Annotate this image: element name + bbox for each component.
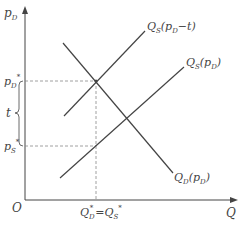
- tax-brace: [15, 81, 23, 146]
- y-axis-label: pD: [4, 6, 18, 22]
- origin-label: O: [12, 201, 22, 215]
- demand-curve: [63, 43, 173, 173]
- pd-star-label: pD*: [4, 73, 21, 90]
- supply-label: QS(pD): [186, 56, 221, 71]
- supply-with-tax-label: QS(pD−t): [147, 20, 196, 35]
- x-axis-label: Q: [226, 206, 236, 220]
- demand-label: QD(pD): [174, 171, 210, 186]
- tax-incidence-diagram: pD Q O pD* pS* t QD*=QS* QS(pD−t) QS(pD)…: [0, 0, 243, 228]
- ps-star-label: pS*: [4, 138, 20, 155]
- equilibrium-quantity-label: QD*=QS*: [80, 204, 122, 221]
- supply-with-tax-curve: [64, 31, 145, 116]
- tax-label: t: [6, 106, 11, 120]
- equilibrium-point: [95, 80, 98, 83]
- supply-curve: [60, 67, 184, 178]
